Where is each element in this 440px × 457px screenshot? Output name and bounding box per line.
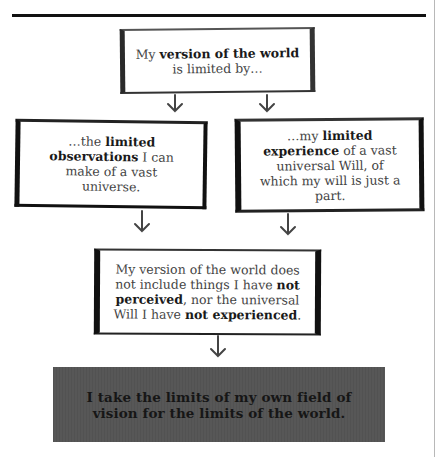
box-version-of-world: My version of the world is limited by… <box>120 27 316 94</box>
text-fragment: is limited by… <box>172 60 262 76</box>
arrow-down-icon <box>208 335 228 359</box>
conclusion-banner: I take the limits of my own field of vis… <box>53 367 385 442</box>
box-text: …the limited observations I can make of … <box>20 133 204 196</box>
arrow-down-icon <box>132 210 152 234</box>
box-text: My version of the world is limited by… <box>130 45 306 77</box>
text-fragment: …the <box>68 133 105 149</box>
box-limited-experience: …my limited experience of a vast univers… <box>235 117 425 213</box>
text-fragment: My version of the world does not include… <box>115 262 300 293</box>
text-fragment: My <box>136 46 160 61</box>
text-fragment: …my <box>287 128 323 143</box>
box-text: …my limited experience of a vast univers… <box>241 127 420 204</box>
page-edge-line <box>434 0 435 457</box>
box-text: My version of the world does not include… <box>100 261 315 322</box>
bold-phrase: not experienced <box>185 307 297 323</box>
arrow-down-icon <box>257 94 277 114</box>
arrow-down-icon <box>278 213 298 237</box>
arrow-down-icon <box>165 94 185 114</box>
conclusion-text: I take the limits of my own field of vis… <box>53 389 385 421</box>
bold-phrase: version of the world <box>159 45 299 61</box>
header-rule <box>12 14 426 17</box>
box-limited-observations: …the limited observations I can make of … <box>14 119 207 210</box>
box-not-perceived: My version of the world does not include… <box>94 248 321 335</box>
text-fragment: . <box>297 307 301 322</box>
